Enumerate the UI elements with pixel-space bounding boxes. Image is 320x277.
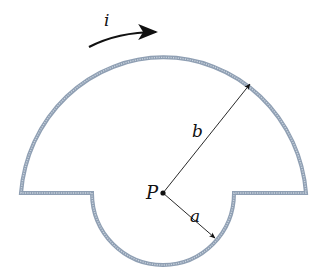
- center-point-label: P: [145, 182, 159, 203]
- radius-a-label: a: [190, 206, 200, 226]
- radius-a-arrow: [163, 193, 215, 238]
- wire-loop-outline: [21, 57, 306, 265]
- current-loop-diagram: i b a P: [0, 0, 320, 277]
- wire-loop: [21, 57, 306, 265]
- current-label: i: [104, 10, 109, 30]
- center-point-dot: [160, 190, 165, 195]
- radius-b-label: b: [192, 121, 203, 141]
- radius-b-arrow: [163, 84, 250, 193]
- current-direction-arrow: [89, 32, 156, 47]
- wire-loop-highlight: [21, 57, 306, 265]
